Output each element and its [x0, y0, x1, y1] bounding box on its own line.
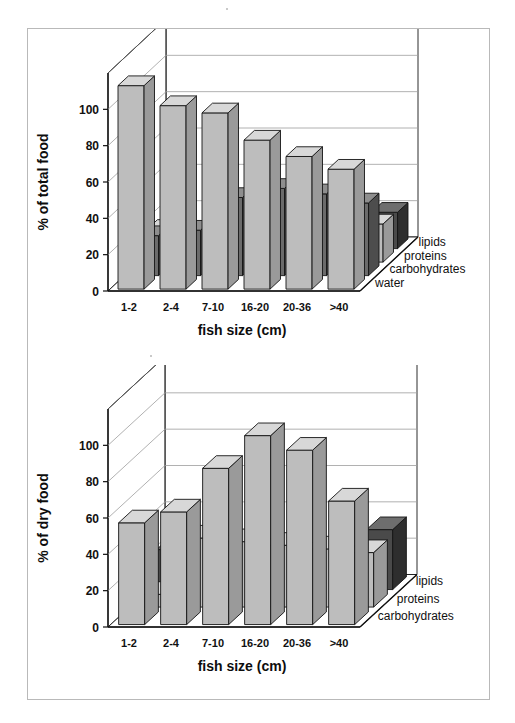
legend-label-lipids: lipids [416, 574, 443, 588]
x-axis-title: fish size (cm) [198, 322, 287, 338]
bar-front-r0-c5 [329, 501, 355, 625]
x-tick-label-1: 2-4 [163, 637, 180, 649]
x-tick-label-4: 20-36 [283, 301, 311, 313]
legend-label-lipids: lipids [418, 235, 445, 249]
ytick-label-60: 60 [86, 512, 100, 526]
x-tick-label-0: 1-2 [121, 637, 137, 649]
ytick-label-20: 20 [86, 248, 100, 262]
x-axis-title: fish size (cm) [198, 658, 287, 674]
bar-side-r0-c1 [186, 96, 196, 289]
chart-total-food-canvas: 0204060801001-22-47-1016-2020-36>40fish … [28, 29, 491, 365]
x-tick-label-0: 1-2 [121, 301, 137, 313]
bar-front-r0-c4 [287, 450, 313, 624]
ytick-label-40: 40 [86, 548, 100, 562]
legend-label-carbohydrates: carbohydrates [389, 262, 465, 276]
legend-label-proteins: proteins [397, 592, 440, 606]
bar-side-r0-c1 [187, 499, 201, 624]
bar-side-r1-c5 [369, 193, 379, 275]
bar-front-r0-c1 [160, 106, 186, 289]
bar-side-r0-c0 [145, 510, 159, 624]
bar-side-r0-c4 [312, 147, 322, 289]
bar-side-r0-c5 [355, 488, 369, 624]
legend-label-carbohydrates: carbohydrates [378, 609, 454, 623]
bar-side-r0-c3 [271, 423, 285, 625]
x-tick-label-2: 7-10 [202, 637, 224, 649]
scan-speck-1 [150, 355, 152, 357]
bar-front-r0-c0 [119, 523, 145, 625]
ytick-label-80: 80 [86, 139, 100, 153]
bar-side-r0-c4 [313, 438, 327, 625]
bar-front-r0-c5 [328, 169, 354, 289]
x-tick-label-1: 2-4 [163, 301, 180, 313]
bar-front-r0-c2 [203, 468, 229, 624]
bar-front-r0-c4 [286, 156, 312, 289]
chart-dry-food: 0204060801001-22-47-1016-2020-36>40fish … [28, 365, 491, 701]
chart-total-food: 0204060801001-22-47-1016-2020-36>40fish … [28, 29, 491, 365]
ytick-label-100: 100 [79, 439, 99, 453]
y-axis-title: % of dry food [35, 473, 51, 562]
x-tick-label-3: 16-20 [241, 637, 269, 649]
bar-side-r0-c0 [144, 76, 154, 289]
y-axis-title: % of total food [35, 133, 51, 230]
bar-front-r0-c3 [244, 140, 270, 289]
ytick-label-0: 0 [92, 621, 99, 635]
ytick-label-80: 80 [86, 475, 100, 489]
bar-front-r0-c0 [118, 86, 144, 289]
x-tick-label-4: 20-36 [283, 637, 311, 649]
legend-label-water: water [374, 276, 404, 290]
bar-side-r0-c2 [229, 456, 243, 625]
bar-side-r0-c2 [228, 103, 238, 289]
bar-front-r0-c3 [245, 436, 271, 625]
x-tick-label-2: 7-10 [202, 301, 224, 313]
figure-page: 0204060801001-22-47-1016-2020-36>40fish … [0, 0, 515, 723]
ytick-label-60: 60 [86, 176, 100, 190]
x-tick-label-5: >40 [330, 637, 349, 649]
chart-dry-food-canvas: 0204060801001-22-47-1016-2020-36>40fish … [28, 365, 491, 701]
ytick-label-20: 20 [86, 584, 100, 598]
ytick-label-100: 100 [79, 103, 99, 117]
ytick-label-0: 0 [92, 285, 99, 299]
bar-front-r0-c1 [161, 512, 187, 625]
bar-front-r0-c2 [202, 113, 228, 289]
scan-speck-0 [226, 8, 228, 10]
bar-side-r0-c5 [354, 159, 364, 289]
figure-border: 0204060801001-22-47-1016-2020-36>40fish … [27, 28, 490, 700]
bar-side-r0-c3 [270, 130, 280, 289]
ytick-label-40: 40 [86, 212, 100, 226]
x-tick-label-5: >40 [330, 301, 349, 313]
legend-label-proteins: proteins [404, 249, 447, 263]
x-tick-label-3: 16-20 [241, 301, 269, 313]
